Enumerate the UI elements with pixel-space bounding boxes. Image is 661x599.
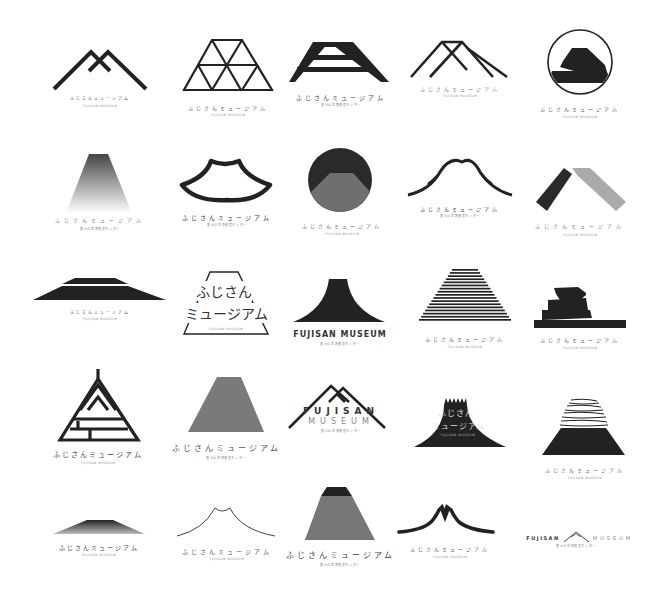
logo-jp-line2: ミュージアム [185,303,268,323]
logo-jp-text: ふじさんミュージアム [59,543,139,552]
logo-jp-line2: ミュージアム [432,420,485,431]
logo-jp-text: ふじさんミュージアム [182,213,272,222]
logo-en-text: FUJISAN MUSEUM [448,345,483,349]
logo-11: ふじさんミュージアム FUJISAN MUSEUM [30,270,170,340]
logo-en-text: FUJISAN MUSEUM [563,233,598,237]
logo-en-text: FUJISAN MUSEUM [210,557,245,561]
logo-jp-text: ふじさんミュージアム [172,442,281,453]
crossed-peak-icon [405,30,515,110]
logo-jp-text: ふじさんミュージアム [420,85,500,92]
logo-18: FUJISAN MUSEUM 富士山世界遺産センター [285,380,395,450]
logo-jp-text: ふじさんミュージアム [70,309,130,315]
logo-22: ふじさんミュージアム FUJISAN MUSEUM [175,500,280,570]
logo-en-text: 富士山世界遺産センター [80,227,120,231]
logo-jp-text: ふじさんミュージアム [286,549,395,560]
logo-en-text: 富士山世界遺産センター [320,563,360,567]
logo-en-text: 富士山世界遺産センター [321,103,361,107]
logo-en-text: FUJISAN MUSEUM [83,317,118,321]
logo-wordmark-left: FUJISAN [526,535,559,541]
logo-jp-line1: ふじさん [438,407,474,418]
logo-16: ふじさんミュージアム FUJISAN MUSEUM [50,365,150,475]
logo-title: FUJISAN MUSEUM [293,330,387,339]
logo-jp-text: ふじさんミュージアム [540,336,620,343]
double-peak-icon [40,40,160,120]
logo-12: ふじさん ミュージアム FUJISAN MUSEUM [180,270,280,340]
logo-3: ふじさんミュージアム 富士山世界遺産センター [285,30,395,120]
logo-17: ふじさんミュージアム 富士山世界遺産センター [170,370,280,465]
logo-en-text: 富士山世界遺産センター [556,544,596,548]
logo-jp-text: ふじさんミュージアム [410,545,490,552]
logo-1: ふじさんミュージアム FUJISAN MUSEUM [40,40,160,120]
logo-19: ふじさん ミュージアム FUJISAN MUSEUM [410,395,520,455]
calligraphic-m-icon [395,500,520,570]
logo-25: FUJISAN MUSEUM 富士山世界遺産センター [525,525,640,555]
logo-en-text: FUJISAN MUSEUM [82,553,117,557]
logo-en-text: FUJISAN MUSEUM [443,94,478,98]
logo-jp-text: ふじさんミュージアム [188,104,268,111]
logo-24: ふじさんミュージアム FUJISAN MUSEUM [395,500,520,570]
logo-jp-text: ふじさんミュージアム [545,466,625,473]
logo-title-line1: FUJISAN [303,406,379,416]
capped-trapezoid-icon [285,485,395,575]
logo-jp-line1: ふじさん [196,281,252,301]
logo-5: ふじさんミュージアム FUJISAN MUSEUM [530,25,630,125]
logo-jp-text: ふじさんミュージアム [55,216,145,223]
logo-jp-text: ふじさんミュージアム [302,222,382,229]
logo-23: ふじさんミュージアム 富士山世界遺産センター [285,485,395,575]
logo-title-line2: MUSEUM [308,417,374,426]
logo-en-text: 富士山世界遺産センター [440,214,480,218]
logo-en-text: FUJISAN MUSEUM [81,461,116,465]
logo-en-text: FUJISAN MUSEUM [441,433,476,437]
logo-en-text: 富士山世界遺産センター [207,223,247,227]
logo-jp-text: ふじさんミュージアム [53,449,143,459]
logo-jp-text: ふじさんミュージアム [420,205,500,212]
logo-6: ふじさんミュージアム 富士山世界遺産センター [40,150,160,235]
logo-13: FUJISAN MUSEUM 富士山世界遺産センター [285,270,395,350]
logo-14: ふじさんミュージアム FUJISAN MUSEUM [415,260,515,350]
logo-en-text: FUJISAN MUSEUM [568,476,603,480]
logo-jp-text: ふじさんミュージアム [70,95,130,101]
logo-jp-text: ふじさんミュージアム [425,335,505,342]
logo-en-text: FUJISAN MUSEUM [563,346,598,350]
logo-en-text: 富士山世界遺産センター [321,429,361,433]
logo-en-text: FUJISAN MUSEUM [83,104,118,108]
logo-7: ふじさんミュージアム 富士山世界遺産センター [175,155,285,235]
logo-en-text: FUJISAN MUSEUM [563,115,598,119]
logo-en-text: 富士山世界遺産センター [320,342,360,346]
logo-en-text: FUJISAN MUSEUM [209,327,244,331]
logo-en-text: FUJISAN MUSEUM [325,232,360,236]
logo-en-text: FUJISAN MUSEUM [211,113,246,117]
logo-8: ふじさんミュージアム FUJISAN MUSEUM [290,145,400,240]
logo-en-text: FUJISAN MUSEUM [433,555,468,559]
logo-20: ふじさんミュージアム FUJISAN MUSEUM [535,395,635,485]
logo-9: ふじさんミュージアム 富士山世界遺産センター [400,150,520,230]
logo-wordmark-right: MUSEUM [593,535,633,541]
logo-jp-text: ふじさんミュージアム [535,222,625,229]
logo-jp-text: ふじさんミュージアム [182,547,272,556]
logo-en-text: 富士山世界遺産センター [206,456,246,460]
logo-2: ふじさんミュージアム FUJISAN MUSEUM [175,30,275,120]
logo-21: ふじさんミュージアム FUJISAN MUSEUM [45,510,155,580]
logo-10: ふじさんミュージアム FUJISAN MUSEUM [530,160,640,240]
logo-15: ふじさんミュージアム FUJISAN MUSEUM [530,280,640,350]
flat-mountain-icon [30,270,170,340]
logo-4: ふじさんミュージアム FUJISAN MUSEUM [405,30,515,110]
logo-jp-text: ふじさんミュージアム [540,105,620,112]
logo-jp-text: ふじさんミュージアム [296,93,386,102]
brush-mountain-icon [400,150,520,230]
